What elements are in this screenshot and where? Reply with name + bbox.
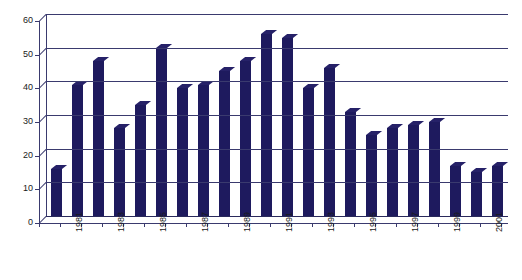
bar-body — [450, 166, 461, 217]
x-axis-tick-label: 1995 — [369, 212, 378, 232]
bar-body — [198, 85, 209, 216]
bar-body — [72, 85, 83, 216]
bar-body — [429, 122, 440, 216]
bar-body — [177, 88, 188, 216]
bar-body — [492, 166, 503, 217]
bar — [198, 85, 209, 216]
x-axis-tick-mark — [438, 223, 439, 227]
bar — [408, 125, 419, 216]
bar-top-face — [387, 124, 403, 128]
gridline — [46, 81, 508, 82]
bar-body — [408, 125, 419, 216]
bar-body — [51, 169, 62, 216]
bar — [156, 48, 167, 216]
bar-top-face — [282, 34, 298, 38]
gridline — [46, 115, 508, 116]
bar-body — [387, 128, 398, 216]
bar-top-face — [240, 57, 256, 61]
bar-top-face — [135, 101, 151, 105]
x-axis-tick-mark — [312, 223, 313, 227]
bar-body — [303, 88, 314, 216]
bar-top-face — [345, 108, 361, 112]
bar-body — [114, 128, 125, 216]
x-axis-tick-mark — [270, 223, 271, 227]
bar-top-face — [492, 162, 508, 166]
y-axis-tick-label: 10 — [0, 184, 33, 193]
bar-top-face — [303, 84, 319, 88]
bar — [135, 105, 146, 216]
bar — [387, 128, 398, 216]
bar-body — [261, 34, 272, 216]
bar-body — [156, 48, 167, 216]
gridline — [46, 149, 508, 150]
x-axis-tick-mark — [39, 223, 40, 227]
bar-top-face — [114, 124, 130, 128]
x-axis-tick-label: 1999 — [453, 212, 462, 232]
gridline — [46, 182, 508, 183]
x-axis-tick-label: 1985 — [159, 212, 168, 232]
bar — [450, 166, 461, 217]
bar — [471, 172, 482, 216]
bar-body — [345, 112, 356, 216]
x-axis-tick-mark — [228, 223, 229, 227]
bar-top-face — [177, 84, 193, 88]
y-axis-tick-label: 50 — [0, 50, 33, 59]
x-axis-tick-label: 1983 — [117, 212, 126, 232]
bar-body — [240, 61, 251, 216]
bar-body — [93, 61, 104, 216]
bar-body — [135, 105, 146, 216]
x-axis-tick-label: 1991 — [285, 212, 294, 232]
x-axis-tick-label: 1989 — [243, 212, 252, 232]
bar — [345, 112, 356, 216]
bar-chart: 0102030405060 19811983198519871989199119… — [0, 0, 522, 280]
y-axis-tick-label: 30 — [0, 117, 33, 126]
x-axis-tick-label: 2001 — [495, 212, 504, 232]
x-axis-tick-mark — [354, 223, 355, 227]
bar — [51, 169, 62, 216]
y-axis-tick-label: 20 — [0, 151, 33, 160]
gridline — [46, 48, 508, 49]
bar-top-face — [261, 30, 277, 34]
bar — [72, 85, 83, 216]
bar — [219, 71, 230, 216]
bar — [177, 88, 188, 216]
bar — [240, 61, 251, 216]
bar — [366, 135, 377, 216]
bar — [261, 34, 272, 216]
x-axis-tick-mark — [480, 223, 481, 227]
bar-top-face — [93, 57, 109, 61]
bar-body — [366, 135, 377, 216]
bar-body — [471, 172, 482, 216]
x-axis-tick-mark — [186, 223, 187, 227]
x-axis-tick-label: 1987 — [201, 212, 210, 232]
bar — [303, 88, 314, 216]
bar — [93, 61, 104, 216]
x-axis-tick-mark — [60, 223, 61, 227]
y-axis-tick-label: 0 — [0, 218, 33, 227]
x-axis-tick-label: 1993 — [327, 212, 336, 232]
bar-top-face — [471, 168, 487, 172]
bar-top-face — [366, 131, 382, 135]
bar — [492, 166, 503, 217]
bar — [114, 128, 125, 216]
bar-body — [282, 38, 293, 216]
x-axis-tick-mark — [102, 223, 103, 227]
x-axis-tick-label: 1981 — [75, 212, 84, 232]
bar-top-face — [324, 64, 340, 68]
bar-top-face — [51, 165, 67, 169]
x-axis-tick-mark — [396, 223, 397, 227]
bar-top-face — [219, 67, 235, 71]
bar-body — [219, 71, 230, 216]
bar — [324, 68, 335, 216]
bar-top-face — [450, 162, 466, 166]
bar-body — [324, 68, 335, 216]
bar — [429, 122, 440, 216]
x-axis-tick-label: 1997 — [411, 212, 420, 232]
y-axis-tick-label: 40 — [0, 83, 33, 92]
plot-area — [46, 14, 508, 216]
bar — [282, 38, 293, 216]
gridline — [46, 14, 508, 15]
bar-top-face — [429, 118, 445, 122]
y-axis-tick-label: 60 — [0, 16, 33, 25]
x-axis-tick-mark — [144, 223, 145, 227]
